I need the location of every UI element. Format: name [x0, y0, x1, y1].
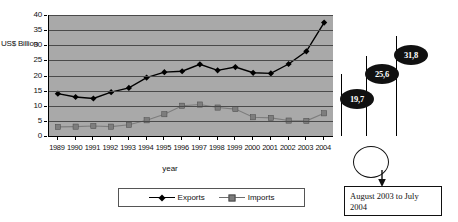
x-tickmark — [217, 136, 218, 140]
x-tick-label: 2002 — [280, 143, 296, 152]
x-tickmark — [234, 136, 235, 140]
gridline — [49, 121, 333, 122]
data-point-imports — [322, 111, 327, 116]
x-tickmark — [75, 136, 76, 140]
square-marker-icon — [228, 194, 235, 201]
y-tick-label: 30 — [34, 41, 43, 49]
exports-line-swatch — [149, 197, 175, 198]
x-tick-label: 1989 — [49, 143, 65, 152]
legend-label-exports: Exports — [178, 193, 205, 202]
data-point-imports — [109, 124, 114, 129]
gridline — [49, 45, 333, 46]
x-tickmark — [110, 136, 111, 140]
x-tick-label: 1996 — [173, 143, 189, 152]
x-tickmark — [252, 136, 253, 140]
y-tick-label: 25 — [34, 56, 43, 64]
y-tickmark — [44, 106, 47, 107]
legend-label-imports: Imports — [248, 193, 275, 202]
gridline — [49, 106, 333, 107]
legend-item-exports: Exports — [149, 193, 205, 202]
x-tickmark — [92, 136, 93, 140]
x-tickmark — [288, 136, 289, 140]
x-tick-label: 1992 — [102, 143, 118, 152]
gridline — [49, 15, 333, 16]
annotation-panel: 19,7 25,6 31,8 August 2003 to July 2004 — [336, 0, 458, 222]
y-tickmark — [44, 30, 47, 31]
legend-item-imports: Imports — [219, 193, 275, 202]
x-tick-label: 1998 — [209, 143, 225, 152]
x-tickmark — [163, 136, 164, 140]
x-tick-label: 1999 — [227, 143, 243, 152]
plot-area — [48, 15, 333, 137]
data-point-exports — [215, 67, 221, 73]
data-point-imports — [55, 124, 60, 129]
imports-line-swatch — [219, 197, 245, 198]
chart-legend: Exports Imports — [118, 188, 305, 207]
y-tick-label: 20 — [34, 72, 43, 80]
y-tickmark — [44, 76, 47, 77]
x-tick-label: 2001 — [262, 143, 278, 152]
data-point-exports — [90, 95, 96, 101]
y-tickmark — [44, 45, 47, 46]
x-tick-label: 1995 — [156, 143, 172, 152]
x-tick-label: 1994 — [138, 143, 154, 152]
chart-container: US$ Billion 0510152025303540 19891990199… — [0, 0, 340, 222]
x-axis-title: year — [0, 164, 340, 173]
x-tickmark — [199, 136, 200, 140]
x-tickmark — [146, 136, 147, 140]
y-tick-label: 40 — [34, 11, 43, 19]
data-point-imports — [73, 124, 78, 129]
callout-value-2: 25,6 — [375, 69, 389, 79]
data-point-imports — [162, 112, 167, 117]
arrow-icon — [336, 140, 458, 190]
x-tick-label: 1997 — [191, 143, 207, 152]
y-tick-label: 10 — [34, 102, 43, 110]
x-tick-label: 2004 — [315, 143, 331, 152]
callout-bubble-3: 31,8 — [394, 45, 428, 65]
data-point-imports — [251, 115, 256, 120]
diamond-marker-icon — [158, 194, 165, 201]
data-point-imports — [233, 106, 238, 111]
data-point-imports — [126, 122, 131, 127]
data-point-exports — [179, 68, 185, 74]
callout-value-1: 19,7 — [350, 94, 364, 104]
x-tick-label: 1993 — [120, 143, 136, 152]
y-tickmark — [44, 91, 47, 92]
x-tickmark — [57, 136, 58, 140]
y-tick-label: 35 — [34, 26, 43, 34]
x-tickmark — [181, 136, 182, 140]
data-point-exports — [232, 64, 238, 70]
annotation-note-text: August 2003 to July 2004 — [350, 191, 419, 212]
y-tick-label: 5 — [38, 117, 42, 125]
x-tick-label: 2003 — [298, 143, 314, 152]
x-tickmark — [305, 136, 306, 140]
x-tick-label: 1991 — [85, 143, 101, 152]
y-tickmark — [44, 121, 47, 122]
data-point-imports — [268, 115, 273, 120]
y-tickmark — [44, 136, 47, 137]
y-tickmark — [44, 60, 47, 61]
data-point-exports — [197, 61, 203, 67]
y-tick-label: 15 — [34, 87, 43, 95]
data-point-exports — [321, 19, 327, 25]
x-tickmark — [270, 136, 271, 140]
callout-value-3: 31,8 — [404, 50, 418, 60]
series-line-imports — [58, 105, 324, 127]
gridline — [49, 76, 333, 77]
x-axis-tickmarks — [48, 136, 332, 142]
y-axis: 0510152025303540 — [0, 9, 46, 142]
gridline — [49, 91, 333, 92]
y-tickmark — [44, 15, 47, 16]
x-tick-label: 1990 — [67, 143, 83, 152]
chart-screenshot: US$ Billion 0510152025303540 19891990199… — [0, 0, 458, 222]
y-tick-label: 0 — [38, 132, 42, 140]
callout-bubble-1: 19,7 — [340, 89, 374, 109]
gridline — [49, 30, 333, 31]
x-tick-label: 2000 — [244, 143, 260, 152]
data-point-exports — [161, 69, 167, 75]
x-tickmark — [128, 136, 129, 140]
x-tickmark — [323, 136, 324, 140]
data-point-imports — [91, 123, 96, 128]
x-axis-tick-labels: 1989199019911992199319941995199619971998… — [20, 143, 340, 155]
annotation-note-box: August 2003 to July 2004 — [344, 186, 442, 216]
